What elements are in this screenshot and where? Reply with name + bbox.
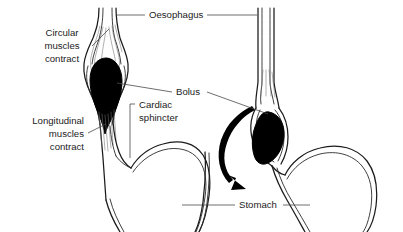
label-cardiac-sphincter-line1: Cardiac [139,99,172,110]
label-bolus-text: Bolus [176,86,200,97]
label-cardiac-sphincter-line2: sphincter [139,112,179,123]
label-stomach-text: Stomach [239,199,277,210]
label-longitudinal-muscles-line2: muscles [49,128,84,139]
label-oesophagus-text: Oesophagus [149,9,204,20]
diagram-canvas: Oesophagus Circular muscles contract Lon… [0,0,403,232]
peristalsis-diagram: Oesophagus Circular muscles contract Lon… [0,0,403,232]
label-circular-muscles-line2: muscles [44,40,79,51]
label-circular-muscles-line3: contract [45,53,79,64]
label-longitudinal-muscles-line3: contract [50,141,84,152]
label-circular-muscles-line1: Circular [45,27,79,38]
label-longitudinal-muscles-line1: Longitudinal [32,115,84,126]
